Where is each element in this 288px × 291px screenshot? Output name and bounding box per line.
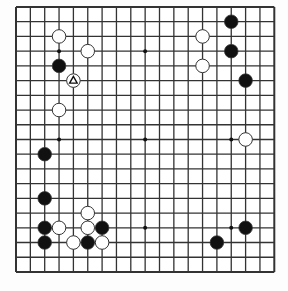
star-point bbox=[57, 49, 61, 53]
white-stone[interactable] bbox=[52, 30, 66, 44]
white-stone[interactable] bbox=[52, 103, 66, 117]
white-stone[interactable] bbox=[239, 133, 253, 147]
black-stone[interactable] bbox=[95, 221, 109, 235]
star-point bbox=[229, 226, 233, 230]
black-stone[interactable] bbox=[224, 44, 238, 58]
star-point bbox=[143, 137, 147, 141]
white-stone[interactable] bbox=[52, 221, 66, 235]
star-point bbox=[143, 226, 147, 230]
white-stone[interactable] bbox=[196, 59, 210, 73]
black-stone[interactable] bbox=[239, 74, 253, 88]
black-stone[interactable] bbox=[38, 147, 52, 161]
white-stone[interactable] bbox=[81, 44, 95, 58]
black-stone[interactable] bbox=[81, 236, 95, 250]
white-stone[interactable] bbox=[67, 236, 81, 250]
white-stone[interactable] bbox=[67, 74, 81, 88]
white-stone[interactable] bbox=[81, 221, 95, 235]
black-stone[interactable] bbox=[38, 221, 52, 235]
black-stone[interactable] bbox=[239, 221, 253, 235]
go-board[interactable] bbox=[0, 0, 288, 291]
black-stone[interactable] bbox=[52, 59, 66, 73]
star-point bbox=[229, 137, 233, 141]
star-point bbox=[143, 49, 147, 53]
white-stone[interactable] bbox=[196, 30, 210, 44]
black-stone[interactable] bbox=[224, 15, 238, 29]
black-stone[interactable] bbox=[38, 192, 52, 206]
black-stone[interactable] bbox=[210, 236, 224, 250]
white-stone[interactable] bbox=[95, 236, 109, 250]
star-point bbox=[57, 137, 61, 141]
black-stone[interactable] bbox=[38, 236, 52, 250]
white-stone[interactable] bbox=[81, 206, 95, 220]
